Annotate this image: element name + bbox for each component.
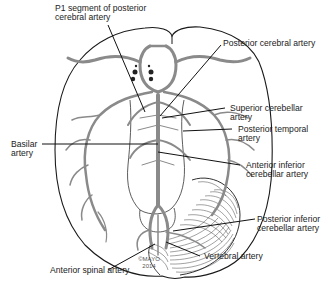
label-superior-cerebellar-artery: Superior cerebellar artery (230, 104, 303, 123)
brain-artery-diagram: P1 segment of posterior cerebral artery … (0, 0, 335, 292)
label-posterior-inferior-cerebellar-artery: Posterior inferior cerebellar artery (257, 215, 320, 234)
label-line: artery (11, 149, 37, 158)
label-line: Anterior spinal artery (50, 266, 129, 275)
copyright-line: ©MAYO (134, 256, 164, 263)
label-anterior-spinal-artery: Anterior spinal artery (50, 266, 129, 275)
label-line: cerebral artery (55, 13, 146, 22)
label-posterior-cerebral-artery: Posterior cerebral artery (223, 39, 315, 48)
leader-aica (158, 152, 240, 165)
label-posterior-temporal-artery: Posterior temporal artery (238, 125, 308, 144)
copyright-year: 2014 (134, 263, 164, 270)
label-line: cerebellar artery (246, 170, 308, 179)
label-basilar-artery: Basilar artery (11, 140, 37, 159)
label-vertebral-artery: Vertebral artery (204, 252, 263, 261)
leader-pca (160, 45, 221, 116)
copyright-notice: ©MAYO 2014 (134, 256, 164, 269)
label-p1-segment: P1 segment of posterior cerebral artery (55, 4, 146, 23)
label-line: artery (238, 134, 308, 143)
label-line: artery (230, 113, 303, 122)
leader-vertebral (166, 242, 200, 256)
label-line: cerebellar artery (257, 224, 320, 233)
label-line: Posterior cerebral artery (223, 39, 315, 48)
label-anterior-inferior-cerebellar-artery: Anterior inferior cerebellar artery (246, 161, 308, 180)
label-line: Vertebral artery (204, 252, 263, 261)
